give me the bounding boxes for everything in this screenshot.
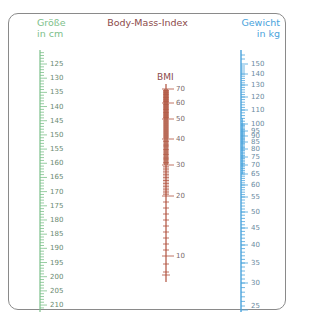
weight-tick-label: 40: [251, 241, 260, 249]
weight-tick-label: 25: [251, 302, 260, 310]
bmi-tick-label: 10: [176, 252, 185, 260]
weight-tick-label: 60: [251, 181, 260, 189]
weight-tick-label: 130: [251, 81, 264, 89]
weight-tick-label: 150: [251, 60, 264, 68]
height-tick-label: 205: [50, 287, 63, 295]
bmi-scale-title: BMI: [157, 73, 174, 81]
height-tick-label: 175: [50, 202, 63, 210]
bmi-tick-label: 20: [176, 192, 185, 200]
weight-tick-label: 70: [251, 161, 260, 169]
bmi-tick-label: 70: [176, 85, 185, 93]
height-tick-label: 135: [50, 88, 63, 96]
bmi-tick-label: 60: [176, 99, 185, 107]
weight-tick-label: 45: [251, 224, 260, 232]
height-tick-label: 195: [50, 259, 63, 267]
height-tick-label: 160: [50, 159, 63, 167]
bmi-tick-label: 30: [176, 161, 185, 169]
height-tick-label: 140: [50, 103, 63, 111]
height-tick-label: 210: [50, 301, 63, 309]
weight-tick-label: 35: [251, 259, 260, 267]
weight-tick-label: 120: [251, 93, 264, 101]
weight-tick-label: 75: [251, 153, 260, 161]
weight-tick-label: 80: [251, 145, 260, 153]
weight-tick-label: 55: [251, 193, 260, 201]
height-tick-label: 170: [50, 188, 63, 196]
height-tick-label: 165: [50, 173, 63, 181]
bmi-tick-label: 40: [176, 135, 185, 143]
height-tick-label: 130: [50, 74, 63, 82]
weight-tick-label: 30: [251, 279, 260, 287]
height-tick-label: 180: [50, 216, 63, 224]
bmi-tick-label: 50: [176, 115, 185, 123]
weight-tick-label: 50: [251, 208, 260, 216]
height-tick-label: 145: [50, 117, 63, 125]
weight-tick-label: 110: [251, 106, 264, 114]
height-tick-label: 185: [50, 230, 63, 238]
height-tick-label: 190: [50, 244, 63, 252]
weight-tick-label: 140: [251, 70, 264, 78]
height-tick-label: 125: [50, 60, 63, 68]
height-tick-label: 200: [50, 273, 63, 281]
height-tick-label: 155: [50, 145, 63, 153]
height-tick-label: 150: [50, 131, 63, 139]
weight-tick-label: 65: [251, 170, 260, 178]
